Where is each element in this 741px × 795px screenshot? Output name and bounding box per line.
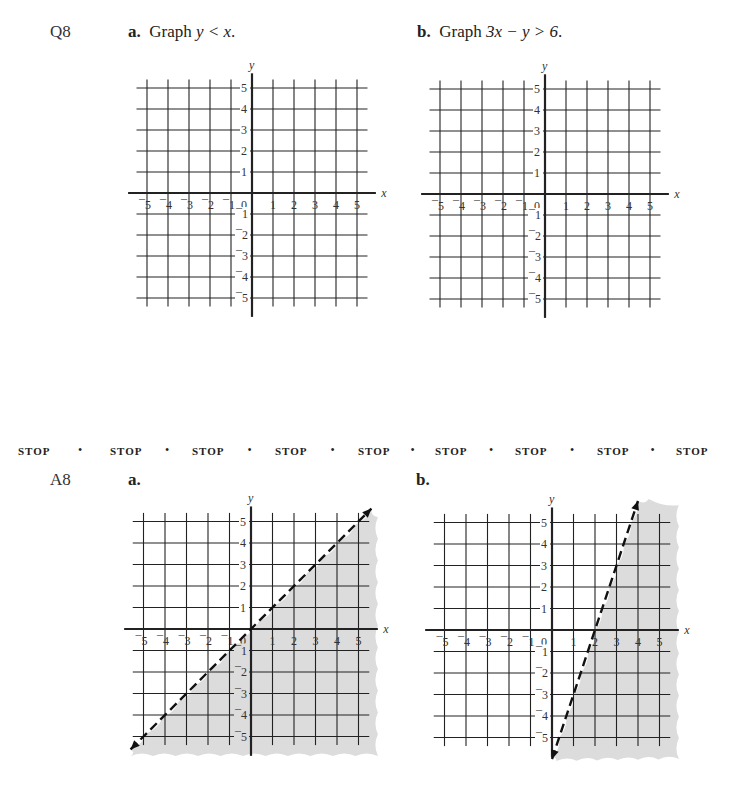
x-axis-label: x <box>683 623 690 637</box>
x-tick-label: ¯4 <box>457 635 470 649</box>
y-tick-label: 1 <box>541 602 547 616</box>
x-tick-label: ¯1 <box>522 635 535 649</box>
graph-a8-b: xy0¯5¯4¯3¯2¯11234512345¯1¯2¯3¯4¯5 <box>0 0 741 795</box>
x-tick-label: 1 <box>571 635 577 649</box>
x-tick-label: ¯5 <box>436 635 449 649</box>
arrowhead-icon <box>631 501 639 511</box>
y-tick-label: 5 <box>541 516 547 530</box>
y-tick-label: ¯3 <box>535 688 548 702</box>
x-tick-label: 5 <box>657 635 663 649</box>
y-tick-label: ¯5 <box>535 731 548 745</box>
y-tick-label: 4 <box>541 537 547 551</box>
y-tick-label: 2 <box>541 580 547 594</box>
x-tick-label: ¯3 <box>479 635 492 649</box>
x-tick-label: ¯2 <box>500 635 513 649</box>
y-tick-label: 3 <box>541 559 547 573</box>
x-tick-label: 3 <box>614 635 620 649</box>
y-tick-label: ¯1 <box>535 645 548 659</box>
y-tick-label: ¯4 <box>535 709 548 723</box>
y-tick-label: ¯2 <box>535 666 548 680</box>
y-axis-label: y <box>548 492 555 506</box>
x-tick-label: 4 <box>635 635 641 649</box>
graph-group: xy0¯5¯4¯3¯2¯11234512345¯1¯2¯3¯4¯5 <box>425 492 690 761</box>
